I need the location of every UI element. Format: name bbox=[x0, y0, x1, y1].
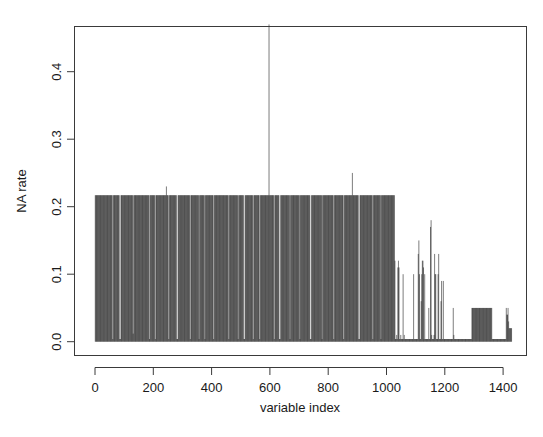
x-tick-label: 400 bbox=[201, 380, 223, 395]
y-tick-label: 0.3 bbox=[50, 130, 65, 148]
chart-container: 0.00.10.20.30.4 020040060080010001200140… bbox=[0, 0, 543, 437]
y-tick-label: 0.4 bbox=[50, 63, 65, 81]
x-tick-label: 800 bbox=[317, 380, 339, 395]
x-tick-label: 1000 bbox=[372, 380, 401, 395]
x-axis-title: variable index bbox=[260, 400, 341, 415]
y-tick-label: 0.0 bbox=[50, 333, 65, 351]
x-tick-label: 1400 bbox=[489, 380, 518, 395]
y-tick-label: 0.1 bbox=[50, 265, 65, 283]
x-tick-label: 0 bbox=[91, 380, 98, 395]
x-tick-label: 1200 bbox=[430, 380, 459, 395]
x-tick-label: 600 bbox=[259, 380, 281, 395]
y-tick-label: 0.2 bbox=[50, 198, 65, 216]
x-tick-label: 200 bbox=[142, 380, 164, 395]
na-rate-bar-chart: 0.00.10.20.30.4 020040060080010001200140… bbox=[0, 0, 543, 437]
y-axis-title: NA rate bbox=[14, 169, 29, 212]
